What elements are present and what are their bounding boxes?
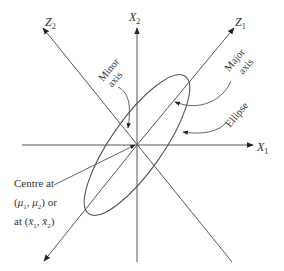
z1-label: Z1 — [235, 15, 246, 31]
svg-text:at (x̄1, x̄2): at (x̄1, x̄2) — [14, 215, 55, 230]
x1-label: X1 — [256, 140, 268, 156]
svg-text:(μ1, μ2) or: (μ1, μ2) or — [14, 196, 57, 211]
x2-label: X2 — [128, 10, 140, 26]
ellipse-annotation: Ellipse — [183, 100, 250, 133]
z2-label: Z2 — [45, 15, 56, 31]
centre-annotation: Centre at (μ1, μ2) or at (x̄1, x̄2) — [14, 145, 135, 230]
svg-text:Centre at: Centre at — [14, 177, 54, 189]
z1-axis — [137, 28, 234, 145]
z1-axis-negative — [44, 145, 137, 261]
major-axis-annotation: Major axis — [175, 46, 255, 105]
svg-text:Ellipse: Ellipse — [223, 100, 250, 130]
ellipse-diagram: X1 X2 Z1 Z2 Minor axis Major axis Ellips… — [0, 0, 284, 271]
minor-axis-annotation: Minor axis — [96, 56, 129, 128]
